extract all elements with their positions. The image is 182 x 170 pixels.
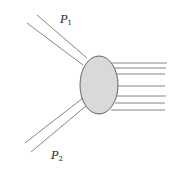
incoming-beam-p1 xyxy=(27,15,87,65)
incoming-beam-p2 xyxy=(25,98,86,152)
interaction-blob xyxy=(80,56,118,114)
label-p1: P1 xyxy=(59,13,72,27)
outgoing-particles xyxy=(111,63,167,110)
scattering-diagram: P1 P2 xyxy=(0,0,182,170)
label-p2: P2 xyxy=(50,149,63,163)
